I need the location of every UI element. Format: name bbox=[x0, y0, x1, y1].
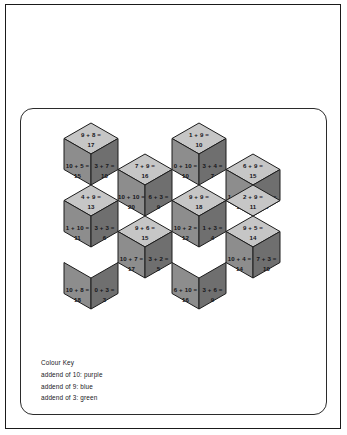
cube-r5-c2-right-expression: 3 + 6 = bbox=[202, 286, 222, 293]
cube-r3-c1-right-expression: 3 + 3 = bbox=[94, 224, 114, 231]
cube-r4-c1-top-answer: 15 bbox=[141, 234, 149, 241]
cube-half-r2-c0-top-answer: 11 bbox=[250, 203, 257, 210]
cube-r3-c2-left-expression: 10 + 2 = bbox=[174, 224, 198, 231]
cube-r3-c1-top-expression: 4 + 9 = bbox=[81, 193, 101, 200]
cube-r3-c2-left-answer: 12 bbox=[182, 234, 190, 241]
cube-r5-c1: 10 + 8 =180 + 3 =3 bbox=[64, 263, 118, 310]
cube-r1-c1-left-expression: 10 + 5 = bbox=[66, 162, 90, 169]
cube-r1-c2-right-expression: 3 + 4 = bbox=[202, 162, 222, 169]
cube-r2-c1-top-expression: 7 + 9 = bbox=[135, 162, 155, 169]
cube-r1-c1-left-answer: 15 bbox=[74, 172, 82, 179]
colour-key: Colour Key addend of 10: purple addend o… bbox=[41, 357, 221, 404]
cube-r5-c2-left-expression: 6 + 10 = bbox=[174, 286, 198, 293]
cube-r3-c1-left-answer: 11 bbox=[74, 234, 81, 241]
cube-r2-c2-top-expression: 6 + 9 = bbox=[243, 162, 263, 169]
cube-r3-c2: 9 + 9 =1810 + 2 =121 + 3 =4 bbox=[172, 185, 226, 247]
cube-r1-c2-right-answer: 7 bbox=[211, 172, 215, 179]
cube-r4-c2: 9 + 5 =1410 + 4 =147 + 3 =10 bbox=[226, 216, 280, 278]
cube-r4-c1-top-expression: 9 + 6 = bbox=[135, 224, 155, 231]
cube-r4-c1: 9 + 6 =1510 + 7 =173 + 2 =5 bbox=[118, 216, 172, 278]
cube-r4-c1-left-answer: 17 bbox=[128, 265, 136, 272]
cube-r1-c1-top-expression: 9 + 8 = bbox=[81, 131, 101, 138]
cube-r2-c1-left-expression: 10 + 10 = bbox=[118, 193, 145, 200]
cube-r5-c2-left-answer: 16 bbox=[182, 296, 190, 303]
cube-r2-c2-top-answer: 15 bbox=[249, 172, 257, 179]
cube-r5-c2-right-answer: 9 bbox=[211, 296, 215, 303]
cube-r4-c2-top-expression: 9 + 5 = bbox=[243, 224, 263, 231]
cube-half-r2-c0-top-expression: 2 + 9 = bbox=[243, 193, 263, 200]
cube-r4-c2-top-answer: 14 bbox=[249, 234, 257, 241]
cube-r2-c1: 7 + 9 =1610 + 10 =206 + 3 =9 bbox=[118, 154, 172, 216]
cube-r3-c2-right-expression: 1 + 3 = bbox=[202, 224, 222, 231]
cube-r2-c1-left-answer: 20 bbox=[128, 203, 136, 210]
cube-r3-c2-top-expression: 9 + 9 = bbox=[189, 193, 209, 200]
cube-r3-c1-left-expression: 1 + 10 = bbox=[66, 224, 90, 231]
colour-key-item-9: addend of 9: blue bbox=[41, 381, 221, 393]
cube-r1-c2-left-answer: 10 bbox=[182, 172, 190, 179]
cube-r5-c1-right-expression: 0 + 3 = bbox=[94, 286, 114, 293]
cube-r5-c1-left-expression: 10 + 8 = bbox=[66, 286, 90, 293]
colour-key-title: Colour Key bbox=[41, 357, 221, 369]
cube-r3-c1: 4 + 9 =131 + 10 =113 + 3 =6 bbox=[64, 185, 118, 247]
cube-r1-c2-top-expression: 1 + 9 = bbox=[189, 131, 209, 138]
cube-r5-c1-right-answer: 3 bbox=[103, 296, 107, 303]
cube-r4-c1-right-expression: 3 + 2 = bbox=[148, 255, 168, 262]
cube-r4-c2-right-expression: 7 + 3 = bbox=[256, 255, 276, 262]
cube-r4-c2-left-expression: 10 + 4 = bbox=[228, 255, 252, 262]
cube-r3-c2-top-answer: 18 bbox=[195, 203, 203, 210]
cube-r1-c1-top-answer: 17 bbox=[87, 141, 95, 148]
cube-r4-c2-left-answer: 14 bbox=[236, 265, 244, 272]
cube-r1-c2-top-answer: 10 bbox=[195, 141, 203, 148]
cube-r4-c1-right-answer: 5 bbox=[157, 265, 161, 272]
cube-r2-c1-top-answer: 16 bbox=[141, 172, 149, 179]
cube-r1-c1: 9 + 8 =1710 + 5 =153 + 7 =10 bbox=[64, 123, 118, 185]
cube-r5-c2: 6 + 10 =163 + 6 =9 bbox=[172, 263, 226, 310]
cube-r1-c1-right-expression: 3 + 7 = bbox=[94, 162, 114, 169]
cube-r1-c2: 1 + 9 =100 + 10 =103 + 4 =7 bbox=[172, 123, 226, 185]
cube-r2-c1-right-expression: 6 + 3 = bbox=[148, 193, 168, 200]
cube-r3-c1-top-answer: 13 bbox=[87, 203, 95, 210]
cube-r4-c1-left-expression: 10 + 7 = bbox=[120, 255, 144, 262]
cube-r3-c2-right-answer: 4 bbox=[211, 234, 215, 241]
cube-r5-c1-left-answer: 18 bbox=[74, 296, 82, 303]
colour-key-item-10: addend of 10: purple bbox=[41, 369, 221, 381]
worksheet-card: 9 + 8 =1710 + 5 =153 + 7 =101 + 9 =100 +… bbox=[20, 108, 327, 415]
colour-key-item-3: addend of 3: green bbox=[41, 392, 221, 404]
cube-r1-c1-right-answer: 10 bbox=[101, 172, 109, 179]
cube-r3-c1-right-answer: 6 bbox=[103, 234, 107, 241]
cube-r1-c2-left-expression: 0 + 10 = bbox=[174, 162, 198, 169]
cube-r4-c2-right-answer: 10 bbox=[263, 265, 271, 272]
worksheet-page: 9 + 8 =1710 + 5 =153 + 7 =101 + 9 =100 +… bbox=[0, 0, 347, 435]
cube-r2-c1-right-answer: 9 bbox=[157, 203, 161, 210]
